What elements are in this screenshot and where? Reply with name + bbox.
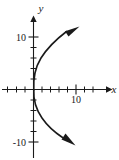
- parabola-figure: y x 10 -10 10: [0, 0, 119, 160]
- x-axis-label: x: [111, 83, 117, 95]
- parabola-lower-arrowhead: [62, 134, 76, 146]
- x-tick-label-10: 10: [71, 94, 81, 105]
- y-tick-label-10: 10: [16, 32, 26, 43]
- y-axis-label: y: [38, 2, 44, 14]
- parabola-upper-arrowhead: [65, 27, 80, 37]
- graph-canvas: y x 10 -10 10: [0, 0, 119, 160]
- parabola-upper-branch: [34, 32, 67, 91]
- parabola-lower-branch: [34, 90, 63, 138]
- y-axis-arrowhead: [30, 16, 36, 23]
- y-tick-label-neg10: -10: [13, 137, 26, 148]
